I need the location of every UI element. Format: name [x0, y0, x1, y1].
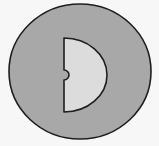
- diagram-canvas: [0, 0, 159, 146]
